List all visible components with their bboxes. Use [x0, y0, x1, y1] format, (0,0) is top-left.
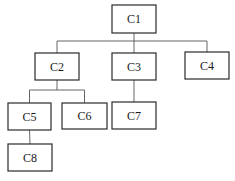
- tree-diagram: C1C2C3C4C5C6C7C8: [0, 0, 235, 181]
- node-label: C1: [127, 12, 141, 26]
- nodes-layer: C1C2C3C4C5C6C7C8: [8, 5, 229, 171]
- node-c4: C4: [185, 52, 229, 79]
- node-label: C8: [23, 151, 37, 165]
- node-label: C4: [200, 59, 214, 73]
- node-label: C3: [127, 60, 141, 74]
- node-c6: C6: [62, 103, 107, 129]
- node-label: C7: [127, 109, 141, 123]
- node-c5: C5: [8, 103, 51, 130]
- edge-c5-c8: [30, 130, 31, 144]
- node-c3: C3: [112, 53, 156, 80]
- node-label: C6: [77, 109, 91, 123]
- node-label: C2: [50, 60, 64, 74]
- node-c7: C7: [112, 102, 156, 129]
- node-c8: C8: [8, 144, 52, 171]
- node-label: C5: [22, 110, 36, 124]
- node-c2: C2: [35, 53, 79, 80]
- node-c1: C1: [112, 5, 156, 33]
